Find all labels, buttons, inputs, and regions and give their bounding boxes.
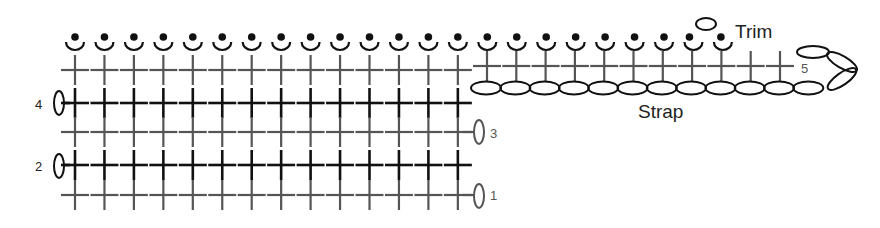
slip-stitch-icon [596, 33, 614, 50]
single-crochet-icon [414, 88, 442, 118]
single-crochet-icon [590, 51, 618, 81]
slip-stitch-icon [243, 33, 261, 50]
single-crochet-icon [90, 117, 118, 147]
slip-stitch-icon [184, 33, 202, 50]
single-crochet-icon [473, 51, 501, 81]
single-crochet-icon [414, 117, 442, 147]
trim-chain-oval-icon [696, 18, 716, 30]
slip-stitch-icon [655, 33, 673, 50]
single-crochet-icon [326, 150, 354, 180]
chain-stitch-icon [471, 82, 501, 95]
single-crochet-icon [208, 55, 236, 85]
single-crochet-icon [297, 150, 325, 180]
single-crochet-icon [326, 117, 354, 147]
slip-stitch-icon [302, 33, 320, 50]
single-crochet-icon [502, 51, 530, 81]
chain-stitch-icon [793, 82, 823, 95]
single-crochet-icon [149, 88, 177, 118]
row-label-3: 3 [490, 126, 497, 141]
single-crochet-icon [414, 180, 442, 210]
trim-label: Trim [735, 21, 772, 42]
single-crochet-icon [385, 55, 413, 85]
slip-stitch-icon [331, 33, 349, 50]
slip-stitch-icon [449, 33, 467, 50]
single-crochet-icon [120, 55, 148, 85]
single-crochet-icon [326, 88, 354, 118]
single-crochet-icon [120, 88, 148, 118]
single-crochet-icon [356, 88, 384, 118]
single-crochet-icon [208, 88, 236, 118]
slip-stitch-icon [626, 33, 644, 50]
single-crochet-icon [414, 150, 442, 180]
single-crochet-icon [385, 117, 413, 147]
row-label-4: 4 [35, 97, 42, 112]
single-crochet-icon [267, 150, 295, 180]
single-crochet-icon [766, 51, 794, 81]
chain-stitch-icon [764, 82, 794, 95]
single-crochet-icon [297, 117, 325, 147]
single-crochet-icon [561, 51, 589, 81]
single-crochet-icon [208, 150, 236, 180]
single-crochet-icon [267, 88, 295, 118]
slip-stitch-icon [66, 33, 84, 50]
slip-stitch-icon [419, 33, 437, 50]
single-crochet-icon [267, 117, 295, 147]
turning-chain-3-icon [474, 120, 484, 144]
single-crochet-icon [90, 150, 118, 180]
single-crochet-icon [149, 180, 177, 210]
single-crochet-icon [208, 117, 236, 147]
single-crochet-icon [120, 180, 148, 210]
slip-stitch-icon [154, 33, 172, 50]
single-crochet-icon [61, 117, 89, 147]
slip-stitch-icon [213, 33, 231, 50]
single-crochet-icon [179, 117, 207, 147]
row-label-2: 2 [35, 159, 42, 174]
single-crochet-icon [385, 180, 413, 210]
single-crochet-icon [707, 51, 735, 81]
chain-stitch-icon [705, 82, 735, 95]
strap-label: Strap [638, 101, 683, 122]
single-crochet-icon [532, 51, 560, 81]
row-label-1: 1 [490, 188, 497, 203]
single-crochet-icon [61, 55, 89, 85]
single-crochet-icon [149, 150, 177, 180]
single-crochet-icon [90, 88, 118, 118]
trim-row [66, 33, 732, 50]
slip-stitch-icon [390, 33, 408, 50]
single-crochet-icon [620, 51, 648, 81]
single-crochet-icon [297, 180, 325, 210]
single-crochet-icon [326, 180, 354, 210]
single-crochet-icon [297, 55, 325, 85]
single-crochet-icon [90, 180, 118, 210]
chain-stitch-icon [735, 82, 765, 95]
chain-stitch-icon [500, 82, 530, 95]
single-crochet-icon [90, 55, 118, 85]
single-crochet-icon [356, 55, 384, 85]
crochet-chart: Trim Strap 4 2 3 1 5 [0, 0, 880, 228]
single-crochet-icon [238, 88, 266, 118]
single-crochet-icon [678, 51, 706, 81]
chain-stitch-icon [530, 82, 560, 95]
slip-stitch-icon [684, 33, 702, 50]
single-crochet-icon [238, 117, 266, 147]
strap-end-chain-icon [797, 46, 829, 58]
strap [471, 51, 823, 95]
single-crochet-icon [444, 150, 472, 180]
single-crochet-icon [179, 150, 207, 180]
single-crochet-icon [297, 88, 325, 118]
chain-stitch-icon [588, 82, 618, 95]
single-crochet-icon [356, 117, 384, 147]
turning-chain-1-icon [474, 184, 484, 208]
slip-stitch-icon [95, 33, 113, 50]
single-crochet-icon [385, 88, 413, 118]
single-crochet-icon [737, 51, 765, 81]
chain-stitch-icon [618, 82, 648, 95]
single-crochet-icon [149, 117, 177, 147]
slip-stitch-icon [567, 33, 585, 50]
body-rows [61, 55, 474, 210]
row-label-5: 5 [801, 61, 808, 76]
single-crochet-icon [61, 180, 89, 210]
single-crochet-icon [179, 180, 207, 210]
slip-stitch-icon [478, 33, 496, 50]
single-crochet-icon [414, 55, 442, 85]
